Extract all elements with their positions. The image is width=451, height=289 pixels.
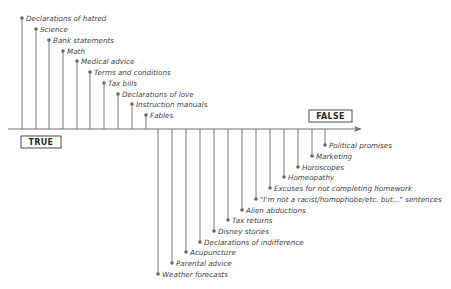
true-item: Math: [61, 47, 85, 56]
dot-icon: [268, 186, 272, 190]
dot-icon: [240, 208, 244, 212]
dot-icon: [130, 102, 134, 106]
true-item: Fables: [144, 111, 173, 120]
false-item: Tax returns: [226, 216, 273, 225]
dot-icon: [296, 165, 300, 169]
item-label: Instruction manuals: [136, 100, 208, 109]
item-label: Fables: [150, 111, 174, 120]
true-item: Tax bills: [102, 79, 137, 88]
dot-icon: [144, 113, 148, 117]
false-item: Marketing: [310, 152, 352, 161]
false-item: Declarations of indifference: [198, 238, 304, 247]
true-item: Declarations of love: [116, 90, 194, 99]
item-label: Weather forecasts: [162, 270, 228, 279]
false-label: FALSE: [316, 112, 345, 121]
item-label: Declarations of indifference: [204, 238, 304, 247]
true-item: Instruction manuals: [130, 100, 207, 109]
dot-icon: [282, 175, 286, 179]
false-item: Horoscopes: [296, 163, 344, 172]
item-label: Homeopathy: [288, 173, 335, 182]
false-item: Political promises: [323, 141, 392, 150]
dot-icon: [198, 240, 202, 244]
item-label: "I'm not a racist/homophobe/etc. but..."…: [260, 195, 442, 204]
dot-icon: [88, 70, 92, 74]
item-label: Bank statements: [53, 36, 114, 45]
dot-icon: [212, 229, 216, 233]
item-label: Excuses for not completing homework: [274, 184, 413, 193]
item-label: Acupuncture: [189, 248, 236, 257]
true-item: Bank statements: [47, 36, 114, 45]
false-item: Acupuncture: [184, 248, 236, 257]
dot-icon: [184, 250, 188, 254]
dot-icon: [323, 143, 327, 147]
stems-layer: [22, 18, 325, 274]
false-item: Disney stories: [212, 227, 269, 236]
true-label-box: TRUE: [21, 136, 61, 148]
true-item: Terms and conditions: [88, 68, 171, 77]
true-label: TRUE: [29, 138, 54, 147]
false-item: Alien abductions: [240, 206, 306, 215]
false-item: Excuses for not completing homework: [268, 184, 413, 193]
item-label: Parental advice: [176, 259, 232, 268]
dot-icon: [75, 59, 79, 63]
dot-icon: [254, 197, 258, 201]
false-label-box: FALSE: [309, 110, 352, 122]
true-item: Science: [34, 25, 68, 34]
item-label: Marketing: [316, 152, 353, 161]
truth-diagram: TRUE FALSE Declarations of hatredScience…: [0, 0, 451, 289]
item-label: Tax bills: [108, 79, 137, 88]
item-label: Disney stories: [218, 227, 269, 236]
dot-icon: [170, 261, 174, 265]
true-item: Declarations of hatred: [20, 14, 107, 23]
item-label: Horoscopes: [302, 163, 344, 172]
item-label: Medical advice: [81, 57, 135, 66]
item-label: Declarations of love: [122, 90, 194, 99]
dot-icon: [156, 272, 160, 276]
item-label: Tax returns: [232, 216, 273, 225]
item-label: Alien abductions: [245, 206, 306, 215]
dot-icon: [47, 38, 51, 42]
item-label: Math: [67, 47, 85, 56]
dot-icon: [226, 218, 230, 222]
dot-icon: [34, 27, 38, 31]
false-item: Parental advice: [170, 259, 232, 268]
item-label: Terms and conditions: [94, 68, 171, 77]
dot-icon: [116, 92, 120, 96]
dot-icon: [310, 154, 314, 158]
item-label: Declarations of hatred: [26, 14, 107, 23]
false-item: "I'm not a racist/homophobe/etc. but..."…: [254, 195, 442, 204]
item-label: Political promises: [329, 141, 392, 150]
items-layer: Declarations of hatredScienceBank statem…: [20, 14, 442, 279]
true-item: Medical advice: [75, 57, 135, 66]
item-label: Science: [40, 25, 68, 34]
false-item: Weather forecasts: [156, 270, 228, 279]
dot-icon: [61, 49, 65, 53]
false-item: Homeopathy: [282, 173, 335, 182]
dot-icon: [20, 16, 24, 20]
dot-icon: [102, 81, 106, 85]
